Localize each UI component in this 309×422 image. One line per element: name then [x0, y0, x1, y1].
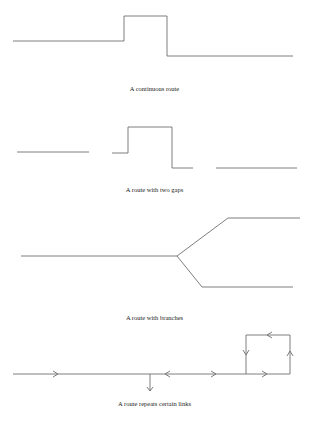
continuous-route-line	[13, 16, 293, 56]
gap-route-segment-2	[112, 127, 193, 168]
route-diagrams	[0, 0, 309, 422]
branch-route-lower	[177, 256, 293, 287]
caption-two-gaps: A route with two gaps	[0, 186, 309, 193]
caption-branches: A route with branches	[0, 314, 309, 321]
caption-continuous: A continuous route	[0, 85, 309, 92]
branch-route-upper	[177, 218, 300, 256]
caption-repeats: A route repeats certain links	[0, 400, 309, 407]
repeat-route-loop	[246, 335, 290, 374]
